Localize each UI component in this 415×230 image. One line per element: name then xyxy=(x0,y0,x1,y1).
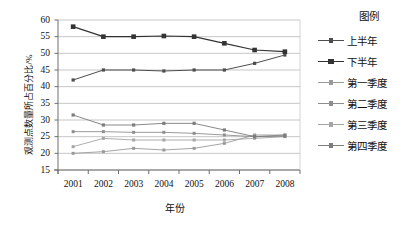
series-marker xyxy=(131,34,136,39)
chart-figure: 观测点数量所占百分比/% 60555045403530252015 200120… xyxy=(0,0,415,230)
series-marker xyxy=(223,128,226,131)
legend-marker-icon xyxy=(318,140,344,152)
legend-marker-icon xyxy=(318,77,344,89)
series-marker xyxy=(72,130,75,133)
series-line xyxy=(73,55,285,80)
series-marker xyxy=(132,139,135,142)
series-marker xyxy=(162,122,165,125)
series-marker xyxy=(193,132,196,135)
series-marker xyxy=(132,147,135,150)
legend-item-label: 下半年 xyxy=(344,54,377,69)
legend: 图例 上半年下半年第一季度第二季度第三季度第四季度 xyxy=(318,8,414,156)
series-marker xyxy=(193,68,196,71)
series-marker xyxy=(72,152,75,155)
legend-item-5[interactable]: 第三季度 xyxy=(318,114,414,135)
series-marker xyxy=(162,131,165,134)
data-series-group xyxy=(71,24,287,154)
x-axis-title: 年份 xyxy=(120,200,230,215)
series-marker xyxy=(132,68,135,71)
series-marker xyxy=(72,145,75,148)
series-marker xyxy=(162,34,167,39)
series-1 xyxy=(72,53,287,81)
series-marker xyxy=(72,78,75,81)
legend-marker-icon xyxy=(318,56,344,68)
legend-marker-icon xyxy=(318,35,344,47)
series-marker xyxy=(252,48,257,53)
series-marker xyxy=(102,123,105,126)
series-marker xyxy=(253,135,256,138)
legend-marker-icon xyxy=(318,98,344,110)
legend-item-1[interactable]: 上半年 xyxy=(318,30,414,51)
series-marker xyxy=(193,139,196,142)
legend-item-4[interactable]: 第二季度 xyxy=(318,93,414,114)
legend-item-label: 第四季度 xyxy=(344,138,387,153)
legend-item-label: 上半年 xyxy=(344,33,377,48)
legend-item-label: 第三季度 xyxy=(344,117,387,132)
series-marker xyxy=(162,69,165,72)
series-marker xyxy=(101,34,106,39)
series-marker xyxy=(102,130,105,133)
legend-item-label: 第二季度 xyxy=(344,96,387,111)
series-marker xyxy=(223,134,226,137)
series-2 xyxy=(71,24,287,54)
series-marker xyxy=(102,137,105,140)
series-marker xyxy=(283,49,288,54)
series-marker xyxy=(102,150,105,153)
series-marker xyxy=(162,139,165,142)
legend-title: 图例 xyxy=(326,8,412,23)
series-marker xyxy=(222,41,227,46)
legend-items: 上半年下半年第一季度第二季度第三季度第四季度 xyxy=(318,30,414,156)
legend-item-6[interactable]: 第四季度 xyxy=(318,135,414,156)
series-marker xyxy=(223,68,226,71)
series-marker xyxy=(71,24,76,29)
legend-item-2[interactable]: 下半年 xyxy=(318,51,414,72)
legend-item-3[interactable]: 第一季度 xyxy=(318,72,414,93)
series-marker xyxy=(102,68,105,71)
series-marker xyxy=(192,34,197,39)
axes xyxy=(54,20,300,174)
series-marker xyxy=(132,131,135,134)
series-marker xyxy=(283,134,286,137)
series-marker xyxy=(193,147,196,150)
gridlines xyxy=(58,20,300,170)
legend-marker-icon xyxy=(318,119,344,131)
series-marker xyxy=(162,149,165,152)
series-marker xyxy=(72,113,75,116)
series-marker xyxy=(132,123,135,126)
series-marker xyxy=(193,122,196,125)
series-marker xyxy=(253,62,256,65)
series-marker xyxy=(223,139,226,142)
series-marker xyxy=(223,142,226,145)
legend-item-label: 第一季度 xyxy=(344,75,387,90)
